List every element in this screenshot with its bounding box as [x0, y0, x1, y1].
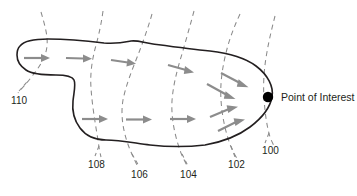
reference-numeral-104: 104: [180, 170, 197, 180]
flow-arrow-8: [126, 116, 152, 124]
flow-arrow-3: [111, 59, 136, 67]
reference-numeral-100: 100: [262, 146, 279, 156]
region-group: [17, 39, 272, 147]
flow-arrow-5: [221, 73, 249, 87]
flow-arrow-2: [66, 55, 92, 63]
contour-group: [18, 11, 275, 167]
point-of-interest-label: Point of Interest: [281, 92, 355, 103]
leader-102: [231, 146, 235, 157]
contour-108: [91, 11, 103, 157]
flow-arrow-4: [168, 65, 194, 74]
flow-arrow-group: [24, 54, 249, 131]
reference-numeral-110: 110: [11, 96, 27, 106]
reference-numeral-106: 106: [131, 170, 148, 180]
leader-108: [95, 146, 99, 156]
reference-numeral-108: 108: [88, 160, 105, 170]
contour-110: [18, 12, 47, 93]
flow-arrow-9: [170, 115, 196, 123]
point-of-interest-marker[interactable]: [263, 92, 273, 102]
region-outline: [17, 39, 272, 147]
leader-106: [132, 154, 139, 166]
flow-arrow-1: [24, 54, 50, 62]
leader-100: [265, 133, 269, 143]
reference-numeral-102: 102: [228, 160, 245, 170]
flow-arrow-11: [218, 118, 245, 131]
diagram-canvas: Point of Interest 110 108 106 104 102 10…: [0, 0, 357, 196]
leader-104: [182, 154, 188, 166]
flow-arrow-10: [210, 105, 238, 117]
contour-104: [172, 11, 194, 167]
